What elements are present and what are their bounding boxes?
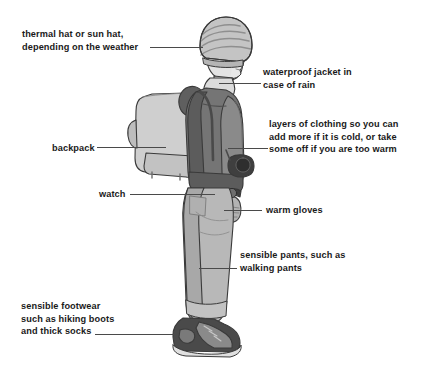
knee-crease — [200, 232, 229, 235]
ear — [225, 60, 230, 68]
boot-heel-panel — [179, 329, 195, 343]
neck-gaiter — [204, 78, 235, 100]
leader-line-watch — [130, 194, 215, 195]
jacket-hem — [189, 172, 243, 194]
trousers — [183, 188, 234, 323]
glove-fingers — [225, 206, 239, 217]
beanie-brim — [203, 58, 243, 67]
boot-toe-panel — [196, 322, 232, 348]
hip-crease — [196, 212, 228, 221]
boot-laces — [204, 326, 221, 341]
backpack-shoulder-strap — [200, 92, 213, 160]
jacket-back-panel — [188, 92, 207, 177]
trouser-cuff — [186, 300, 227, 318]
annotation-backpack-label: backpack — [52, 142, 132, 155]
boot-sole — [173, 345, 241, 357]
mouth — [236, 69, 240, 70]
head — [206, 34, 243, 80]
annotation-pants-label: sensible pants, such as walking pants — [240, 249, 390, 274]
leader-line-footwear — [95, 334, 175, 335]
cargo-pocket — [190, 196, 206, 216]
annotation-hat-label: thermal hat or sun hat, depending on the… — [22, 28, 162, 53]
camera-strap — [226, 150, 230, 160]
nose — [239, 58, 243, 64]
wrist-watch-band — [224, 189, 241, 197]
beanie-stripes — [200, 25, 251, 55]
leader-line-pants — [199, 268, 237, 269]
beanie-crown — [200, 17, 252, 62]
jacket-body — [186, 88, 243, 195]
watch-face — [227, 188, 236, 197]
beanie-hat — [203, 22, 248, 58]
leader-line-gloves — [224, 210, 262, 211]
jacket-hood — [179, 86, 205, 116]
neck — [214, 76, 233, 92]
annotation-jacket-label: waterproof jacket in case of rain — [263, 66, 403, 91]
jacket-sleeve — [221, 96, 244, 188]
leader-line-hat — [150, 47, 203, 48]
annotation-layers-label: layers of clothing so you can add more i… — [269, 118, 419, 156]
annotation-footwear-label: sensible footwear such as hiking boots a… — [21, 300, 141, 338]
backpack-front-pocket — [144, 153, 193, 177]
diagram-canvas: thermal hat or sun hat, depending on the… — [0, 0, 421, 369]
sleeve-crease — [234, 100, 243, 166]
trousers-back-shadow — [184, 188, 204, 321]
leader-line-backpack — [97, 147, 166, 148]
backpack-body — [135, 93, 197, 175]
chest-strap — [203, 104, 226, 106]
leader-line-jacket — [219, 83, 261, 84]
leader-line-layers — [228, 148, 268, 149]
camera-pouch — [228, 155, 254, 177]
camera-lens — [236, 158, 250, 172]
annotation-gloves-label: warm gloves — [266, 204, 356, 217]
hiking-boot — [173, 318, 240, 352]
face-profile — [230, 44, 244, 79]
